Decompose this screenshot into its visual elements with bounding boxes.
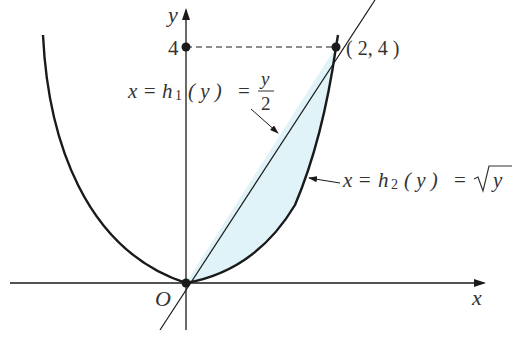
h2-eq: = xyxy=(454,168,466,192)
h2-prefix: x = xyxy=(342,168,372,192)
h2-arg: ( y ) xyxy=(404,168,438,192)
label-h1: x = h 1 ( y ) = y 2 xyxy=(127,68,274,114)
origin-label: O xyxy=(155,286,171,311)
intersection-dot xyxy=(332,43,341,52)
x-axis-label: x xyxy=(471,285,482,310)
h1-arg: ( y ) xyxy=(188,79,222,103)
point-label: ( 2, 4 ) xyxy=(346,37,399,60)
h2-radicand: y xyxy=(491,168,503,192)
y-tick-dot xyxy=(182,43,191,52)
y-tick-label: 4 xyxy=(168,36,179,60)
label-h2: x = h 2 ( y ) = y xyxy=(342,166,512,192)
line-h1 xyxy=(160,0,375,330)
h1-func: h xyxy=(162,79,173,103)
region-diagram: y x O 4 ( 2, 4 ) x = h 1 ( y ) = y 2 x =… xyxy=(0,0,514,345)
h1-prefix: x = xyxy=(127,79,157,103)
h1-denominator: 2 xyxy=(261,93,271,114)
h1-sub: 1 xyxy=(175,88,182,103)
h2-sub: 2 xyxy=(391,177,398,192)
h1-numerator: y xyxy=(259,68,270,89)
y-axis-label: y xyxy=(166,2,178,27)
h2-func: h xyxy=(378,168,389,192)
origin-dot xyxy=(182,279,191,288)
h2-pointer-arrow xyxy=(309,178,340,183)
h1-eq: = xyxy=(238,79,250,103)
